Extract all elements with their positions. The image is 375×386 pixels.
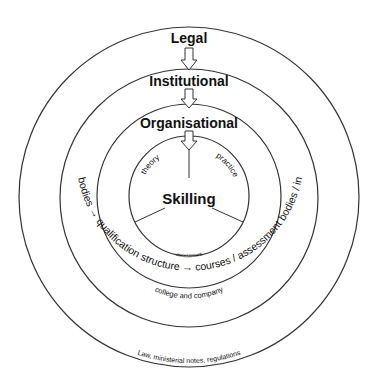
arrow-down-icon [181, 48, 197, 70]
nested-circles-diagram: Legal Institutional Organisational Skill… [0, 0, 375, 386]
level-label-legal: Legal [171, 30, 208, 46]
core-label-skilling: Skilling [162, 190, 215, 207]
arrow-down-icon [181, 89, 197, 108]
ring-text-organisational: college and company [154, 285, 225, 301]
segment-assessment: assessment [176, 251, 204, 259]
segment-practice: practice [215, 151, 241, 179]
segment-theory: theory [139, 153, 161, 176]
arrow-down-icon [181, 131, 197, 150]
ring-text-legal: Law, ministerial notes, regulations [137, 349, 242, 364]
level-label-institutional: Institutional [149, 73, 228, 89]
level-label-organisational: Organisational [140, 115, 238, 131]
